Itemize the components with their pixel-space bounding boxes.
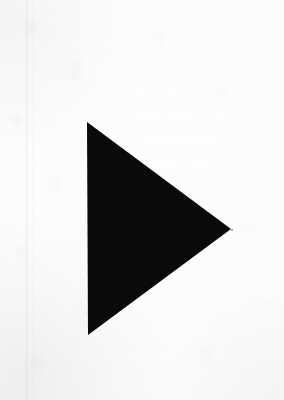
triangle-svg xyxy=(0,0,284,400)
scanned-page xyxy=(0,0,284,400)
play-triangle-icon xyxy=(87,122,231,335)
marker-layer xyxy=(0,0,284,400)
